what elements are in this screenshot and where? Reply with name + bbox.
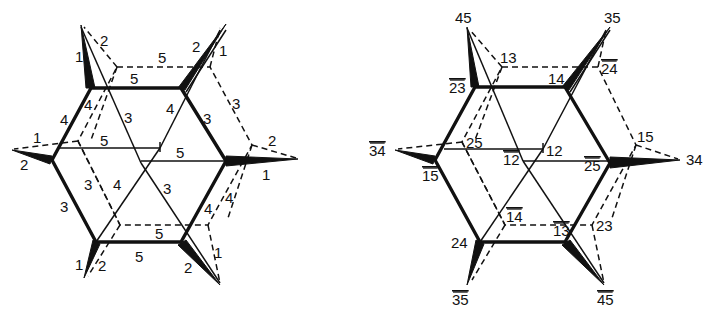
- edge-label: 4: [166, 100, 174, 117]
- vertex-label: 13: [500, 49, 517, 66]
- edge-label: 3: [203, 110, 211, 127]
- edge-label: 5: [155, 225, 163, 242]
- vertex-label: 12: [546, 142, 563, 159]
- vertex-label: 24: [451, 234, 468, 251]
- vertex-label: 13: [553, 222, 570, 239]
- edge-label: 5: [158, 49, 166, 66]
- front-hexagon: [52, 88, 226, 242]
- vertex-label: 15: [637, 128, 654, 145]
- edge-label: 2: [184, 259, 192, 276]
- edge-label: 4: [113, 176, 121, 193]
- edge-label: 5: [135, 248, 143, 265]
- edge-label: 3: [163, 180, 171, 197]
- edge-label: 2: [100, 32, 108, 49]
- right-diagram: 45 35 13 24 23 14 34 25 12 12 15 34 15 2…: [369, 9, 703, 308]
- vertex-label: 15: [422, 167, 439, 184]
- edge-label: 1: [75, 48, 83, 65]
- vertex-label: 34: [686, 151, 703, 168]
- edge-label: 3: [232, 95, 240, 112]
- vertex-label: 25: [466, 134, 483, 151]
- edge-label: 4: [204, 200, 212, 217]
- edge-label: 3: [84, 176, 92, 193]
- edge-label: 2: [192, 38, 200, 55]
- vertex-label: 14: [548, 70, 565, 87]
- vertex-label: 25: [584, 157, 601, 174]
- edge-label: 4: [225, 189, 233, 206]
- edge-label: 5: [100, 132, 108, 149]
- diagram-canvas: 1 2 5 5 2 1 4 4 3 4 3 3 1 2 5 5 2 1 3 4 …: [0, 0, 717, 316]
- left-diagram: 1 2 5 5 2 1 4 4 3 4 3 3 1 2 5 5 2 1 3 4 …: [12, 24, 298, 285]
- vertex-label: 45: [455, 9, 472, 26]
- vertex-label: 14: [506, 208, 523, 225]
- edge-label: 4: [60, 111, 68, 128]
- edge-label: 1: [262, 166, 270, 183]
- vertex-label: 35: [452, 291, 469, 308]
- vertex-label: 45: [597, 291, 614, 308]
- edge-label: 1: [219, 42, 227, 59]
- edge-label: 5: [130, 70, 138, 87]
- vertex-label: 12: [503, 151, 520, 168]
- edge-label: 1: [75, 256, 83, 273]
- vertex-label: 23: [449, 79, 466, 96]
- edge-label: 2: [98, 257, 106, 274]
- edge-label: 3: [60, 198, 68, 215]
- vertex-label: 24: [601, 60, 618, 77]
- vertex-label: 34: [369, 142, 386, 159]
- edge-label: 2: [20, 156, 28, 173]
- edge-label: 1: [214, 244, 222, 261]
- edge-label: 3: [124, 109, 132, 126]
- edge-label: 1: [33, 129, 41, 146]
- vertex-label: 23: [596, 217, 613, 234]
- edge-label: 4: [84, 96, 92, 113]
- edge-label: 2: [268, 132, 276, 149]
- edge-label: 5: [176, 144, 184, 161]
- vertex-label: 35: [604, 9, 621, 26]
